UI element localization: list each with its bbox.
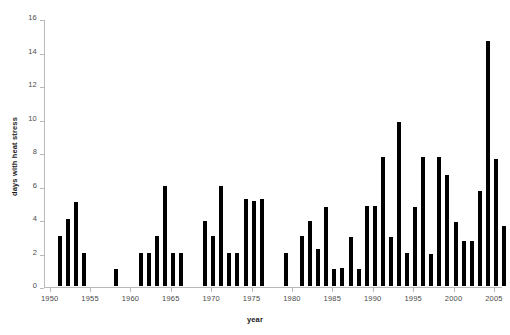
bar	[502, 226, 506, 286]
bar	[300, 236, 304, 286]
y-tick-label: 4	[33, 215, 37, 223]
y-axis: 0246810121416	[0, 20, 44, 288]
bar	[147, 253, 151, 287]
bar	[445, 175, 449, 286]
bar	[454, 222, 458, 286]
x-tick-label: 1975	[243, 294, 261, 303]
bar	[413, 207, 417, 286]
plot-area	[44, 20, 502, 288]
x-tick-mark	[292, 288, 293, 292]
y-tick-label: 16	[28, 14, 37, 22]
bar	[219, 186, 223, 287]
bar	[373, 206, 377, 286]
x-tick-mark	[130, 288, 131, 292]
x-tick-label: 1990	[364, 294, 382, 303]
bar	[349, 237, 353, 286]
x-tick-mark	[373, 288, 374, 292]
bar	[171, 253, 175, 287]
bar	[163, 186, 167, 287]
bar	[114, 269, 118, 286]
x-tick-mark	[50, 288, 51, 292]
y-tick-label: 14	[28, 48, 37, 56]
y-tick-label: 12	[28, 81, 37, 89]
x-tick-mark	[332, 288, 333, 292]
bar	[437, 157, 441, 286]
bar	[478, 191, 482, 286]
bar	[227, 253, 231, 287]
bar	[397, 122, 401, 286]
bar	[82, 253, 86, 287]
bar	[365, 206, 369, 286]
bar	[244, 199, 248, 286]
bar	[332, 269, 336, 286]
x-tick-label: 2005	[485, 294, 503, 303]
bar	[340, 268, 344, 286]
x-tick-mark	[90, 288, 91, 292]
bar	[357, 269, 361, 286]
x-tick-mark	[252, 288, 253, 292]
heat-stress-bar-chart: 0246810121416 days with heat stress 1950…	[0, 0, 510, 335]
bar	[66, 219, 70, 286]
x-tick-mark	[494, 288, 495, 292]
bar	[494, 159, 498, 286]
y-tick-label: 10	[28, 115, 37, 123]
y-axis-title: days with heat stress	[10, 82, 19, 232]
x-tick-mark	[211, 288, 212, 292]
bar	[179, 253, 183, 287]
x-tick-label: 1995	[404, 294, 422, 303]
bar	[470, 241, 474, 286]
bar	[405, 253, 409, 287]
y-tick-label: 2	[33, 249, 37, 257]
x-axis-title: year	[0, 315, 510, 324]
bar	[155, 236, 159, 286]
bar	[389, 237, 393, 286]
bar	[260, 199, 264, 286]
bar	[235, 253, 239, 287]
x-tick-label: 1950	[41, 294, 59, 303]
bar	[211, 236, 215, 286]
bar	[421, 157, 425, 286]
bar	[74, 202, 78, 286]
bar	[324, 207, 328, 286]
bar	[308, 221, 312, 286]
x-tick-label: 2000	[445, 294, 463, 303]
bar	[139, 253, 143, 287]
x-tick-label: 1955	[81, 294, 99, 303]
bar	[252, 201, 256, 286]
bar	[462, 241, 466, 286]
y-tick-label: 6	[33, 182, 37, 190]
x-tick-label: 1970	[202, 294, 220, 303]
bar-series	[46, 20, 502, 286]
bar	[284, 253, 288, 287]
bar	[316, 249, 320, 286]
x-axis: 1950195519601965197019751980198519901995…	[44, 288, 502, 310]
x-tick-label: 1985	[324, 294, 342, 303]
x-tick-mark	[413, 288, 414, 292]
x-tick-label: 1960	[122, 294, 140, 303]
x-tick-label: 1965	[162, 294, 180, 303]
bar	[203, 221, 207, 286]
x-tick-mark	[171, 288, 172, 292]
bar	[486, 41, 490, 286]
y-tick-label: 8	[33, 148, 37, 156]
y-tick-label: 0	[33, 282, 37, 290]
bar	[381, 157, 385, 286]
bar	[58, 236, 62, 286]
x-tick-mark	[454, 288, 455, 292]
bar	[429, 254, 433, 286]
x-tick-label: 1980	[283, 294, 301, 303]
